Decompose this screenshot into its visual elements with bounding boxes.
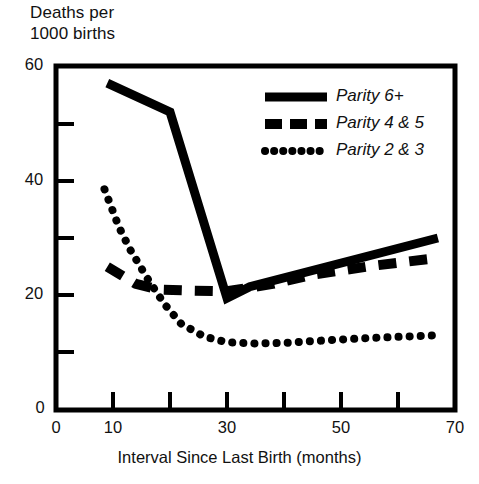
legend-label-parity-2-3: Parity 2 & 3 — [336, 140, 424, 160]
x-axis-title: Interval Since Last Birth (months) — [0, 448, 479, 467]
y-tick-label-0: 0 — [28, 398, 52, 417]
y-axis-title-line2: 1000 births — [30, 24, 115, 43]
y-tick-label-40: 40 — [16, 170, 52, 189]
x-tick-label-30: 30 — [210, 418, 244, 437]
y-axis-title-line1: Deaths per — [30, 3, 114, 22]
y-tick-label-60: 60 — [16, 55, 52, 74]
chart-figure: Deaths per1000 births — [0, 0, 479, 484]
y-axis-ticks — [56, 124, 74, 352]
x-tick-label-50: 50 — [324, 418, 358, 437]
x-tick-label-10: 10 — [96, 418, 130, 437]
plot-canvas — [0, 0, 479, 484]
y-tick-label-20: 20 — [16, 284, 52, 303]
x-tick-label-70: 70 — [438, 418, 472, 437]
legend-swatches — [265, 97, 327, 151]
legend-label-parity-4-5: Parity 4 & 5 — [336, 113, 424, 133]
x-tick-label-0: 0 — [44, 418, 68, 437]
y-axis-title: Deaths per1000 births — [30, 2, 115, 44]
x-axis-ticks — [113, 392, 398, 410]
legend-label-parity-6plus: Parity 6+ — [336, 86, 404, 106]
